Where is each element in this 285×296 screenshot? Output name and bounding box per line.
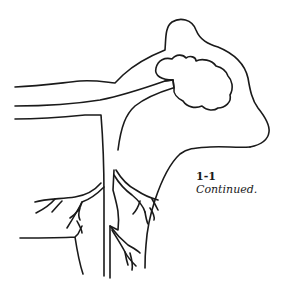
outer-contour-lower [145,147,250,268]
lower-left-contour [20,226,83,274]
right-branch-upper [116,170,158,200]
caption-text: Continued. [196,183,257,196]
trunk-left-edge [15,115,104,276]
right-branch-twig-1 [133,201,140,214]
left-branch-lower [67,187,104,228]
figure-number: 1-1 [196,170,257,183]
lobed-gland [156,55,232,110]
right-branch-lower [110,226,140,253]
figure-canvas: 1-1 Continued. [0,0,285,296]
trunk-right-edge [110,170,119,278]
anatomical-line-drawing [0,0,285,296]
right-branch-lower-twig [125,252,132,270]
gland-stalk [165,80,174,88]
left-branch-main [35,183,101,202]
left-branch-twig-2 [52,201,62,212]
vessel-lower-edge [118,88,173,150]
vessel-upper-edge [15,80,173,106]
figure-caption: 1-1 Continued. [196,170,257,196]
